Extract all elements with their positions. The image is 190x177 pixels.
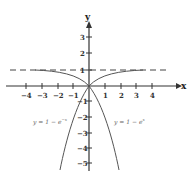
x-tick-label: −2 <box>53 91 64 100</box>
x-tick-label: −3 <box>37 91 48 100</box>
x-tick-label: 4 <box>150 91 155 100</box>
y-tick-label: −2 <box>77 113 88 122</box>
y-tick-label: −3 <box>77 129 88 138</box>
x-tick-label: 1 <box>103 91 108 100</box>
y-tick-label: −4 <box>77 144 88 153</box>
x-tick-label: 3 <box>134 91 139 100</box>
y-tick-label: 2 <box>80 49 85 58</box>
x-tick-label: −4 <box>21 91 32 100</box>
y-axis-label: y <box>84 12 91 22</box>
chart: x y −4 −3 −2 −1 1 2 3 4 3 2 1 −1 −2 −3 −… <box>0 0 190 177</box>
y-tick-label: −1 <box>77 97 88 106</box>
x-axis-label: x <box>181 81 187 91</box>
y-tick-label: 3 <box>80 33 85 42</box>
y-tick-label: −5 <box>77 159 88 168</box>
y-axis-arrow-icon <box>86 21 92 28</box>
left-curve-label: y = 1 − e−x <box>32 117 68 126</box>
right-curve-label: y = 1 − ex <box>113 117 145 126</box>
x-tick-label: 2 <box>119 91 124 100</box>
y-tick-label: 1 <box>80 66 85 75</box>
